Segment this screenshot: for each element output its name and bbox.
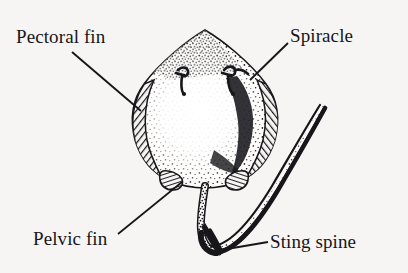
stingray-anatomy-figure: Pectoral fin Spiracle Pelvic fin Sting s…: [0, 0, 408, 273]
leader-line-pelvic-fin: [118, 182, 182, 234]
leader-line-spiracle: [250, 43, 288, 80]
label-sting-spine: Sting spine: [270, 232, 356, 252]
label-spiracle: Spiracle: [290, 26, 353, 46]
label-pelvic-fin: Pelvic fin: [33, 229, 107, 249]
label-pectoral-fin: Pectoral fin: [16, 27, 105, 47]
leader-line-pectoral-fin: [72, 52, 141, 111]
